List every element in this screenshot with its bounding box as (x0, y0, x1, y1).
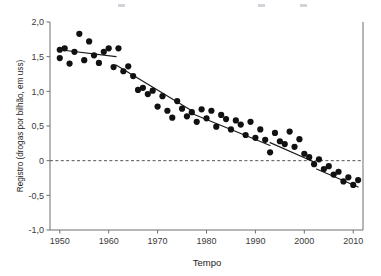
data-point (291, 144, 297, 150)
y-tick-label: 0 (39, 156, 44, 166)
data-point (306, 154, 312, 160)
data-point (179, 106, 185, 112)
data-point (159, 93, 165, 99)
y-axis-title: Registro (drogas por bilhão, em uss) (16, 60, 25, 193)
data-point (238, 122, 244, 128)
data-point (257, 126, 263, 132)
data-point (86, 38, 92, 44)
data-point (218, 112, 224, 118)
data-point (311, 161, 317, 167)
x-tick-label: 1970 (148, 236, 168, 246)
y-tick-label: 2,0 (31, 17, 44, 27)
data-point (140, 85, 146, 91)
data-point (252, 135, 258, 141)
data-point (223, 116, 229, 122)
data-point (267, 149, 273, 155)
data-point (120, 68, 126, 74)
title-remnant-2 (300, 4, 307, 7)
x-axis-title: Tempo (193, 257, 222, 268)
data-point (335, 169, 341, 175)
data-point (169, 115, 175, 121)
data-point (184, 113, 190, 119)
title-remnant-0 (118, 4, 125, 7)
data-point (189, 109, 195, 115)
x-tick-label: 1980 (196, 236, 216, 246)
data-point (233, 117, 239, 123)
x-tick-label: 1950 (50, 236, 70, 246)
x-tick-label: 1990 (245, 236, 265, 246)
data-point (345, 174, 351, 180)
y-tick-label: -0,5 (28, 191, 44, 201)
scatter-plot-canvas: -1,0-0,500,51,01,52,0 195019601970198019… (0, 0, 381, 276)
data-point (296, 136, 302, 142)
x-tick-label: 2010 (343, 236, 363, 246)
data-point (164, 108, 170, 114)
data-point (262, 137, 268, 143)
x-tick-label: 2000 (294, 236, 314, 246)
data-point (340, 178, 346, 184)
data-point (62, 45, 68, 51)
data-point (96, 60, 102, 66)
data-point (316, 156, 322, 162)
data-point (282, 141, 288, 147)
data-point (203, 115, 209, 121)
y-tick-label: 1,5 (31, 52, 44, 62)
data-point (106, 45, 112, 51)
data-point (243, 132, 249, 138)
y-tick-label: -1,0 (28, 225, 44, 235)
x-tick-label: 1960 (99, 236, 119, 246)
data-point (247, 119, 253, 125)
data-point (194, 119, 200, 125)
chart-figure: -1,0-0,500,51,01,52,0 195019601970198019… (0, 0, 381, 276)
data-point (81, 57, 87, 63)
data-point (287, 128, 293, 134)
data-point (66, 61, 72, 67)
data-point (125, 63, 131, 69)
y-tick-label: 0,5 (31, 121, 44, 131)
figure-background (0, 0, 381, 276)
data-point (355, 177, 361, 183)
data-point (326, 163, 332, 169)
y-tick-label: 1,0 (31, 87, 44, 97)
data-point (228, 126, 234, 132)
data-point (91, 52, 97, 58)
data-point (213, 124, 219, 130)
data-point (130, 73, 136, 79)
data-point (71, 49, 77, 55)
data-point (110, 64, 116, 70)
data-point (350, 182, 356, 188)
data-point (154, 103, 160, 109)
data-point (115, 45, 121, 51)
data-point (76, 31, 82, 37)
data-point (208, 108, 214, 114)
data-point (199, 106, 205, 112)
data-point (174, 98, 180, 104)
data-point (272, 130, 278, 136)
data-point (57, 55, 63, 61)
data-point (150, 88, 156, 94)
title-remnant-1 (258, 4, 265, 7)
